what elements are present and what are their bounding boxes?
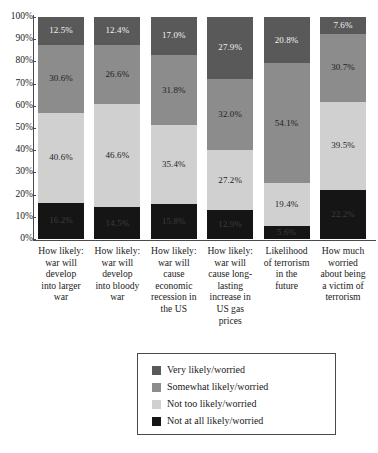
plot-area: 12.5%30.6%40.6%16.2%12.4%26.6%46.6%14.5%…: [34, 17, 378, 239]
bar-3: 17.0%31.8%35.4%15.8%: [151, 17, 197, 239]
category-label-line: war will: [86, 257, 148, 269]
legend-swatch-icon: [152, 366, 161, 375]
bar-3-segment-4: 15.8%: [151, 204, 197, 239]
y-axis-tick-70pct: 70%: [1, 79, 33, 89]
segment-value-label: 5.6%: [277, 228, 296, 237]
chart-legend: Very likely/worriedSomewhat likely/worri…: [137, 353, 336, 435]
segment-value-label: 15.8%: [162, 217, 186, 226]
bar-6-segment-3: 39.5%: [320, 102, 366, 190]
category-label-line: How likely:: [30, 245, 92, 257]
y-axis-tick-0pct: 0%: [1, 234, 33, 244]
category-label-1: How likely:war willdevelopinto largerwar: [30, 245, 92, 303]
y-axis-tick-labels: 100%90%80%70%60%50%40%30%20%10%0%: [0, 0, 33, 453]
legend-label: Not too likely/worried: [167, 399, 256, 409]
segment-value-label: 30.7%: [331, 63, 355, 72]
category-label-line: recession in: [143, 291, 205, 303]
category-label-line: lasting: [199, 280, 261, 292]
category-label-line: develop: [30, 268, 92, 280]
category-label-line: into larger: [30, 280, 92, 292]
y-axis-tick-30pct: 30%: [1, 167, 33, 177]
bar-5: 20.8%54.1%19.4%5.6%: [264, 17, 310, 239]
category-label-line: How likely:: [143, 245, 205, 257]
legend-swatch-icon: [152, 383, 161, 392]
category-label-line: terrorism: [312, 291, 374, 303]
y-axis-tick-20pct: 20%: [1, 190, 33, 200]
category-label-line: US gas: [199, 303, 261, 315]
category-label-line: in the: [256, 268, 318, 280]
bar-1: 12.5%30.6%40.6%16.2%: [38, 17, 84, 239]
segment-value-label: 20.8%: [275, 36, 299, 45]
bar-4: 27.9%32.0%27.2%12.9%: [207, 17, 253, 239]
bar-6-segment-2: 30.7%: [320, 34, 366, 102]
bar-1-segment-2: 30.6%: [38, 45, 84, 113]
category-label-line: How likely:: [86, 245, 148, 257]
category-label-line: of terrorism: [256, 257, 318, 269]
y-axis-tick-80pct: 80%: [1, 56, 33, 66]
segment-value-label: 35.4%: [162, 160, 186, 169]
bar-4-segment-4: 12.9%: [207, 210, 253, 239]
category-label-line: How likely:: [199, 245, 261, 257]
bar-2-segment-3: 46.6%: [94, 104, 140, 207]
segment-value-label: 12.5%: [49, 26, 73, 35]
x-axis-line: [33, 240, 376, 241]
legend-item-3: Not too likely/worried: [152, 397, 256, 411]
legend-item-2: Somewhat likely/worried: [152, 380, 268, 394]
segment-value-label: 27.9%: [218, 43, 242, 52]
y-axis-tick-mark: [33, 239, 36, 240]
segment-value-label: 14.5%: [106, 219, 130, 228]
legend-label: Not at all likely/worried: [167, 416, 263, 426]
bar-1-segment-4: 16.2%: [38, 203, 84, 239]
segment-value-label: 46.6%: [106, 151, 130, 160]
segment-value-label: 12.9%: [218, 220, 242, 229]
category-label-line: cause: [143, 268, 205, 280]
bar-5-segment-1: 20.8%: [264, 17, 310, 63]
bar-3-segment-1: 17.0%: [151, 17, 197, 55]
y-axis-tick-90pct: 90%: [1, 34, 33, 44]
bar-3-segment-3: 35.4%: [151, 125, 197, 204]
bar-1-segment-3: 40.6%: [38, 113, 84, 203]
segment-value-label: 39.5%: [331, 141, 355, 150]
segment-value-label: 26.6%: [106, 70, 130, 79]
legend-item-1: Very likely/worried: [152, 363, 245, 377]
category-label-line: worried: [312, 257, 374, 269]
category-label-line: Likelihood: [256, 245, 318, 257]
category-label-line: the US: [143, 303, 205, 315]
y-axis-tick-40pct: 40%: [1, 145, 33, 155]
bar-4-segment-3: 27.2%: [207, 150, 253, 210]
segment-value-label: 17.0%: [162, 31, 186, 40]
legend-swatch-icon: [152, 400, 161, 409]
category-label-5: Likelihoodof terrorismin thefuture: [256, 245, 318, 291]
category-label-line: war: [86, 291, 148, 303]
y-axis-tick-100pct: 100%: [1, 12, 33, 22]
bar-6-segment-1: 7.6%: [320, 17, 366, 34]
bar-6-segment-4: 22.2%: [320, 190, 366, 239]
bar-4-segment-1: 27.9%: [207, 17, 253, 79]
legend-item-4: Not at all likely/worried: [152, 414, 263, 428]
bar-3-segment-2: 31.8%: [151, 55, 197, 126]
bar-5-segment-3: 19.4%: [264, 183, 310, 226]
segment-value-label: 40.6%: [49, 153, 73, 162]
bar-5-segment-4: 5.6%: [264, 226, 310, 238]
bar-5-segment-2: 54.1%: [264, 63, 310, 183]
legend-label: Very likely/worried: [167, 365, 245, 375]
category-label-line: economic: [143, 280, 205, 292]
segment-value-label: 32.0%: [218, 110, 242, 119]
segment-value-label: 27.2%: [218, 176, 242, 185]
category-label-6: How muchworriedabout beinga victim ofter…: [312, 245, 374, 303]
category-label-2: How likely:war willdevelopinto bloodywar: [86, 245, 148, 303]
segment-value-label: 16.2%: [49, 216, 73, 225]
bar-2-segment-2: 26.6%: [94, 45, 140, 104]
bar-4-segment-2: 32.0%: [207, 79, 253, 150]
category-label-line: future: [256, 280, 318, 292]
category-label-line: a victim of: [312, 280, 374, 292]
category-label-line: cause long-: [199, 268, 261, 280]
category-label-line: How much: [312, 245, 374, 257]
legend-swatch-icon: [152, 417, 161, 426]
category-label-4: How likely:war willcause long-lastinginc…: [199, 245, 261, 326]
legend-label: Somewhat likely/worried: [167, 382, 268, 392]
y-axis-tick-60pct: 60%: [1, 101, 33, 111]
segment-value-label: 7.6%: [333, 21, 352, 30]
category-label-line: develop: [86, 268, 148, 280]
category-label-line: war will: [143, 257, 205, 269]
segment-value-label: 31.8%: [162, 86, 186, 95]
